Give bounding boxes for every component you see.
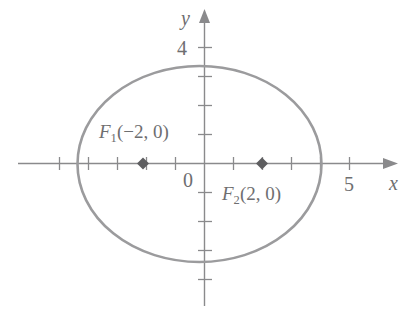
coordinate-plane-svg [0,0,416,315]
focus-point-marker-f2 [256,158,268,170]
y-axis-label: y [181,8,190,28]
focus-2-letter: F [222,183,234,204]
x-axis-arrowhead [383,158,398,169]
y-axis-arrowhead [199,9,210,23]
focus-1-label: F1(−2, 0) [99,122,169,141]
y-axis-tick-label-4: 4 [177,38,187,58]
focus-2-label: F2(2, 0) [222,184,281,203]
focus-point-marker-f1 [137,158,149,170]
ellipse-foci-figure: y x 4 5 0 F1(−2, 0) F2(2, 0) [0,0,416,315]
x-axis-label: x [389,173,398,193]
x-axis-tick-label-5: 5 [344,174,354,194]
focus-1-coordinates: (−2, 0) [117,121,169,142]
focus-2-coordinates: (2, 0) [240,183,281,204]
focus-1-letter: F [99,121,111,142]
origin-label: 0 [183,170,193,190]
